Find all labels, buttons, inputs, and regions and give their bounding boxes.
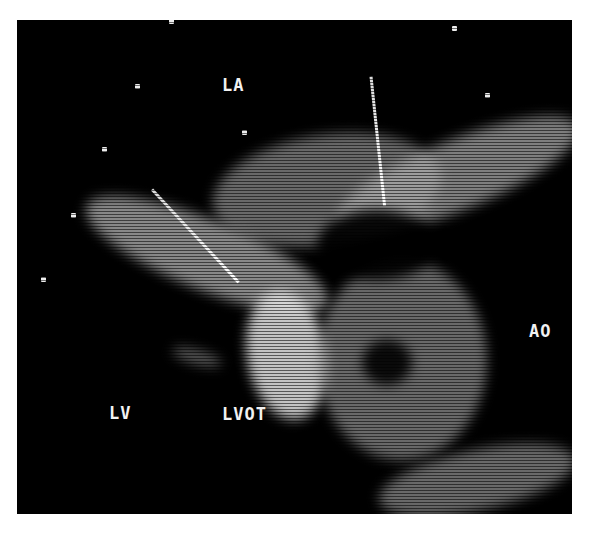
marker-dot [135, 84, 140, 89]
marker-dot [169, 20, 174, 24]
marker-dot [41, 277, 46, 282]
marker-dot [485, 93, 490, 98]
label-lv: LV [109, 403, 131, 423]
label-la: LA [222, 75, 244, 95]
marker-dot [102, 147, 107, 152]
label-ao: AO [529, 321, 551, 341]
label-lvot: LVOT [222, 404, 267, 424]
marker-dot [242, 130, 247, 135]
dark-cavity [317, 210, 437, 280]
marker-dot [71, 213, 76, 218]
echocardiogram-image: LA LV LVOT AO [17, 20, 572, 514]
dark-valve-cavity [362, 340, 412, 385]
small-left-echo [171, 344, 223, 370]
marker-dot [452, 26, 457, 31]
